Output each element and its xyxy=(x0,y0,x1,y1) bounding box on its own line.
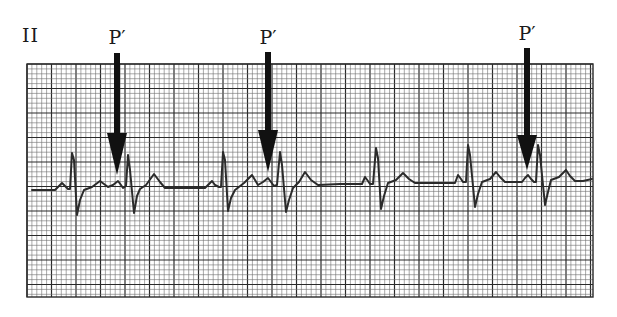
p-prime-label: P′ xyxy=(518,22,535,44)
p-prime-label: P′ xyxy=(108,26,125,48)
lead-label: II xyxy=(22,24,39,46)
ecg-strip xyxy=(0,0,617,317)
p-prime-label: P′ xyxy=(259,26,276,48)
